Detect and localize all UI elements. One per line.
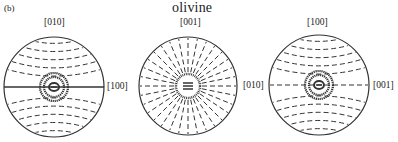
stereonet-3 bbox=[269, 19, 369, 142]
stereonet-1 bbox=[4, 21, 104, 142]
stereonet-canvas bbox=[0, 0, 398, 142]
stereonet-2 bbox=[139, 37, 237, 135]
